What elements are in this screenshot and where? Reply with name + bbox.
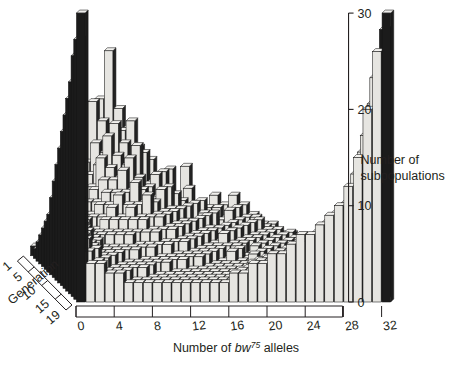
y-axis-label-line1: Number of	[361, 153, 420, 167]
histogram-bar	[76, 10, 88, 302]
x-tick-label: 16	[229, 318, 245, 334]
y-tick-label: 30	[358, 7, 372, 21]
histogram-canvas: 0102030Number ofsubpopulations0481216202…	[0, 0, 473, 370]
y-tick-label: 10	[358, 199, 372, 213]
y-tick-label: 0	[358, 296, 365, 310]
x-tick-label: 12	[191, 318, 207, 334]
y-axis-label-line2: subpopulations	[361, 169, 445, 183]
y-tick-label: 20	[358, 103, 372, 117]
figure-3d-histogram: 0102030Number ofsubpopulations0481216202…	[0, 0, 473, 370]
x-tick-label: 24	[306, 318, 322, 334]
x-tick-label: 32	[382, 318, 398, 334]
x-tick-label: 28	[344, 318, 360, 334]
x-axis-label: Number of bw75 alleles	[173, 340, 299, 356]
x-axis-band	[76, 306, 343, 317]
x-tick-label: 20	[268, 318, 284, 334]
